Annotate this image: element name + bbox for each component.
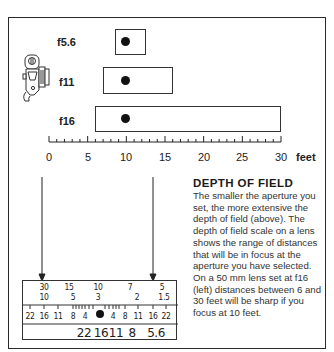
lens-meters-mark: 5	[71, 292, 76, 302]
lens-feet-mark: 15	[64, 282, 73, 292]
lens-feet-mark: 5	[160, 282, 165, 292]
lens-dof-mark: 16	[148, 311, 157, 321]
aperture-ring-mark: 5.6	[147, 326, 165, 340]
lens-dof-scale: 30 15 10 7 5 10 5 3 2 1.5 22 16 11 8 4 4…	[22, 280, 177, 340]
section-body-text: The smaller the aperture you set, the mo…	[193, 190, 325, 319]
lens-dof-mark: 8	[123, 311, 128, 321]
lens-dof-mark: 11	[133, 311, 142, 321]
lens-dof-mark: 4	[111, 311, 116, 321]
axis-tick-label: 5	[85, 151, 91, 163]
axis-tick-label: 30	[275, 151, 287, 163]
lens-feet-mark: 7	[128, 282, 133, 292]
lens-feet-mark: 10	[93, 282, 102, 292]
axis-tick-label: 10	[120, 151, 132, 163]
lens-meters-mark: 10	[39, 292, 48, 302]
aperture-ring-mark: 22	[77, 326, 91, 340]
section-heading: DEPTH OF FIELD	[193, 177, 293, 189]
lens-meters-mark: 2	[135, 292, 140, 302]
lens-dof-mark: 4	[83, 311, 88, 321]
aperture-ring-mark: 8	[128, 326, 135, 340]
lens-dof-mark: 11	[53, 311, 62, 321]
lens-meters-mark: 1.5	[158, 292, 169, 302]
axis-unit-label: feet	[296, 151, 316, 163]
axis-tick-label: 0	[46, 151, 52, 163]
lens-dof-mark: 8	[71, 311, 76, 321]
lens-meters-mark: 3	[96, 292, 101, 302]
lens-dof-mark: 16	[39, 311, 48, 321]
lens-dof-mark: 22	[161, 311, 170, 321]
axis-tick-label: 15	[159, 151, 171, 163]
axis-tick-label: 20	[198, 151, 210, 163]
focus-index-dot	[96, 310, 104, 318]
lens-feet-mark: 30	[39, 282, 48, 292]
aperture-ring-mark: 16	[94, 326, 108, 340]
lens-dof-mark: 22	[25, 311, 34, 321]
axis-tick-label: 25	[236, 151, 248, 163]
aperture-ring-mark: 11	[109, 326, 123, 340]
